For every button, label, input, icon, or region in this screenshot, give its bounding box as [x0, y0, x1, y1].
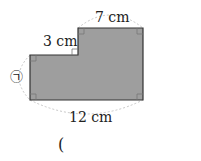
answer-parenthesis: ( [58, 137, 64, 153]
step-height-label: 3 cm [43, 34, 77, 48]
unknown-side-label: ㉠ [10, 70, 23, 83]
bottom-length-label: 12 cm [69, 110, 112, 124]
top-length-label: 7 cm [95, 10, 129, 24]
